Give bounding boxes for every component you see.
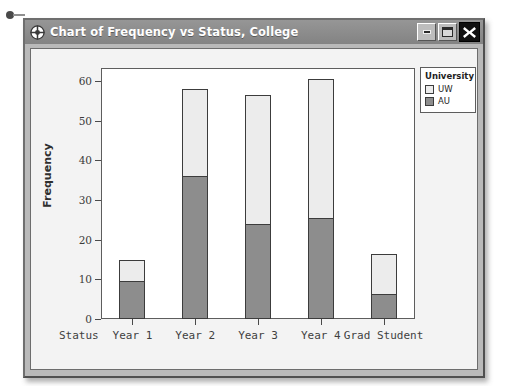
y-tick-mark [95, 240, 101, 241]
x-tick-label: Year 4 [301, 329, 341, 342]
x-tick-label: Year 2 [175, 329, 215, 342]
y-tick-label: 50 [52, 115, 92, 127]
window-title: Chart of Frequency vs Status, College [50, 25, 415, 39]
bar-segment-uw[interactable] [308, 79, 334, 218]
window-titlebar[interactable]: Chart of Frequency vs Status, College [25, 20, 483, 44]
x-tick-label: Year 1 [113, 329, 153, 342]
bar-segment-uw[interactable] [371, 254, 397, 294]
x-tick-mark [321, 319, 322, 325]
x-axis-label: Status [59, 329, 99, 342]
legend-swatch-icon [425, 97, 434, 106]
legend-label: UW [438, 84, 453, 94]
x-tick-mark [384, 319, 385, 325]
scan-artifact-line [13, 14, 25, 16]
crosshair-target-icon [30, 25, 45, 40]
x-tick-label: Year 3 [238, 329, 278, 342]
x-tick-mark [195, 319, 196, 325]
bar-segment-au[interactable] [308, 218, 334, 319]
legend-entry-uw[interactable]: UW [425, 84, 471, 94]
y-tick-mark [95, 81, 101, 82]
chart-legend: University UWAU [420, 67, 476, 113]
x-tick-mark [132, 319, 133, 325]
maximize-button[interactable] [438, 23, 457, 41]
legend-rows: UWAU [425, 84, 471, 106]
x-tick-mark [258, 319, 259, 325]
y-tick-mark [95, 160, 101, 161]
y-tick-label: 10 [52, 273, 92, 285]
bar-segment-au[interactable] [371, 294, 397, 319]
bar-segment-uw[interactable] [182, 89, 208, 176]
maximize-icon [442, 27, 453, 37]
y-tick-mark [95, 279, 101, 280]
bar-group[interactable] [119, 260, 145, 320]
bar-segment-au[interactable] [245, 224, 271, 319]
legend-title: University [425, 71, 471, 81]
bar-segment-uw[interactable] [245, 95, 271, 224]
bar-group[interactable] [245, 95, 271, 319]
bar-segment-au[interactable] [119, 281, 145, 319]
bar-group[interactable] [308, 79, 334, 319]
bar-segment-uw[interactable] [119, 260, 145, 282]
window-client-area: Frequency 0102030405060 Year 1Year 2Year… [30, 48, 478, 370]
y-tick-label: 0 [52, 313, 92, 325]
x-tick-label: Grad Student [344, 329, 423, 342]
bar-group[interactable] [182, 89, 208, 319]
chart-window: Chart of Frequency vs Status, College Fr… [23, 18, 485, 378]
y-tick-label: 30 [52, 194, 92, 206]
legend-swatch-icon [425, 85, 434, 94]
bar-segment-au[interactable] [182, 176, 208, 319]
bar-group[interactable] [371, 254, 397, 319]
minimize-icon [423, 30, 431, 34]
y-tick-mark [95, 319, 101, 320]
y-tick-label: 60 [52, 75, 92, 87]
y-tick-mark [95, 200, 101, 201]
y-tick-mark [95, 121, 101, 122]
legend-label: AU [438, 96, 450, 106]
y-axis-label: Frequency [41, 116, 54, 236]
close-icon [462, 25, 477, 40]
chart-canvas: Frequency 0102030405060 Year 1Year 2Year… [31, 49, 477, 369]
minimize-button[interactable] [417, 23, 436, 41]
close-button[interactable] [459, 22, 480, 42]
y-tick-label: 20 [52, 234, 92, 246]
y-tick-label: 40 [52, 154, 92, 166]
legend-entry-au[interactable]: AU [425, 96, 471, 106]
